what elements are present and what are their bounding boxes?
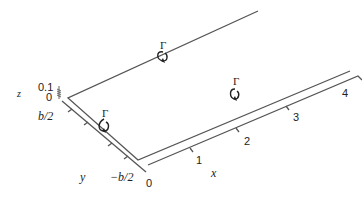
- y-tick-4: [124, 156, 128, 159]
- x-tick-label-3: 3: [293, 112, 299, 123]
- gamma-label-top: Γ: [160, 40, 166, 51]
- y-tick-label-top: b/2: [38, 110, 53, 122]
- z-tick-label-zero: 0: [46, 92, 52, 103]
- x-tick-label-4: 4: [342, 88, 348, 99]
- x-tick-label-2: 2: [244, 136, 250, 147]
- gamma-label-bottom: Γ: [233, 76, 239, 87]
- horseshoe-vortex-line: [68, 11, 350, 160]
- y-tick-2: [84, 122, 88, 125]
- x-tick-label-0: 0: [146, 178, 152, 189]
- y-tick-3: [108, 143, 112, 146]
- x-tick-1: [190, 148, 193, 152]
- x-tick-2: [236, 128, 239, 132]
- y-axis-label: y: [80, 171, 85, 183]
- x-axis-label: x: [211, 167, 216, 179]
- z-axis-label: z: [17, 89, 21, 99]
- horseshoe-vortex-diagram: Γ Γ Γ z 0.1 0 b/2 y −b/2 0 1 2 3 4 x: [0, 0, 362, 197]
- diagram-canvas: [0, 0, 362, 197]
- x-tick-label-1: 1: [196, 155, 202, 166]
- y-tick-label-bottom: −b/2: [110, 171, 133, 183]
- gamma-label-bound: Γ: [102, 108, 108, 119]
- z-axis-hatch: [57, 86, 61, 99]
- x-tick-3: [286, 106, 289, 110]
- x-axis-line: [148, 76, 362, 165]
- y-tick-1: [68, 109, 72, 112]
